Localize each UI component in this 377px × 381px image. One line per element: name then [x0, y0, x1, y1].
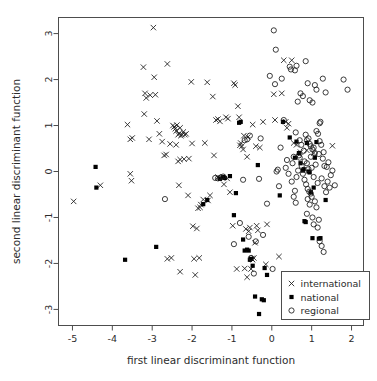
legend-label: international — [301, 278, 361, 289]
y-tick-label: 1 — [43, 123, 54, 129]
y-tick-label: -2 — [43, 259, 54, 268]
legend-label: national — [301, 292, 340, 303]
y-tick-label: 2 — [43, 77, 54, 83]
y-tick-label: 3 — [43, 31, 54, 37]
x-axis-title: first linear discriminant function — [127, 354, 295, 366]
x-tick-label: -2 — [187, 333, 196, 344]
y-tick-label: -1 — [43, 213, 54, 222]
y-tick-label: -3 — [43, 305, 54, 314]
legend-marker-square-icon — [289, 295, 293, 299]
y-tick-label: 0 — [43, 168, 54, 174]
discriminant-scatter-plot: -5-4-3-2-1012-3-2-10123first linear disc… — [0, 0, 377, 381]
x-tick-label: -3 — [147, 333, 156, 344]
x-tick-label: -5 — [68, 333, 77, 344]
legend: internationalnationalregional — [282, 272, 370, 320]
x-tick-label: 1 — [309, 333, 315, 344]
x-tick-label: -1 — [227, 333, 236, 344]
y-axis-title: second linear discriminant function — [10, 79, 22, 264]
x-tick-label: 0 — [269, 333, 275, 344]
scatter-plot-figure: -5-4-3-2-1012-3-2-10123first linear disc… — [0, 0, 377, 381]
x-tick-label: -4 — [108, 333, 117, 344]
legend-label: regional — [301, 305, 340, 316]
legend-item-international: international — [289, 278, 361, 289]
x-tick-label: 2 — [349, 333, 355, 344]
